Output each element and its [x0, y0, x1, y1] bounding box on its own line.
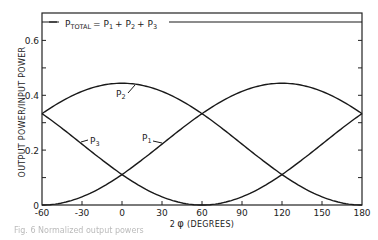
x-tick--60: -60 [35, 208, 50, 218]
x-tick-150: 150 [313, 208, 330, 218]
x-tick-60: 60 [196, 208, 208, 218]
p3-pointer-icon [81, 140, 88, 142]
y-axis-title: OUTPUT POWER/INPUT POWER [18, 46, 27, 177]
plot-frame [42, 13, 362, 205]
p2-label: P2 [116, 89, 126, 101]
series-p3-line [42, 114, 362, 205]
chart: 0 0.2 0.4 0.6 -60 -30 0 30 60 90 120 150… [0, 0, 378, 240]
x-tick-90: 90 [236, 208, 248, 218]
x-tick-180: 180 [353, 208, 370, 218]
p1-label: P1 [142, 133, 152, 145]
x-axis-title: 2φ(DEGREES) [170, 218, 234, 229]
x-tick--30: -30 [75, 208, 90, 218]
p2-pointer-icon [128, 85, 135, 93]
x-tick-120: 120 [273, 208, 290, 218]
x-tick-30: 30 [156, 208, 168, 218]
p1-pointer-icon [153, 141, 162, 143]
y-tick-0-6: 0.6 [25, 36, 40, 46]
y-ticks [42, 40, 362, 177]
figure-caption: Fig. 6 Normalized output powers [14, 226, 144, 235]
p3-label: P3 [90, 136, 100, 148]
x-tick-0: 0 [119, 208, 125, 218]
